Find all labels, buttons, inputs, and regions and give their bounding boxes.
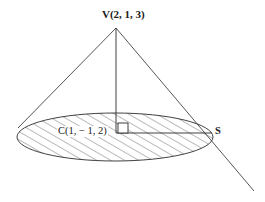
right-slant-line-extended xyxy=(116,28,254,191)
right-angle-marker-icon xyxy=(118,123,128,133)
cone-figure: V(2, 1, 3) C(1, − 1, 2) S xyxy=(0,0,265,202)
center-label: C(1, − 1, 2) xyxy=(57,126,108,137)
cone-diagram-svg xyxy=(0,0,265,202)
slant-point-label: S xyxy=(214,126,222,137)
vertex-label: V(2, 1, 3) xyxy=(102,9,145,20)
